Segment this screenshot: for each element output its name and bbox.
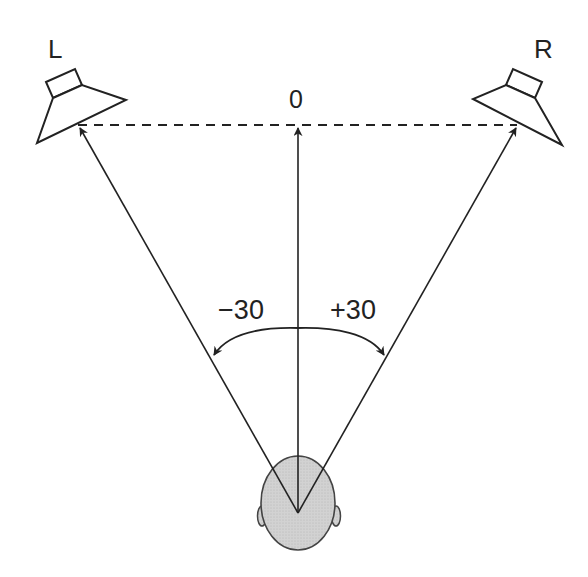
left-angle-label: −30: [218, 295, 264, 325]
right-speaker-label: R: [534, 34, 553, 64]
right-angle-label: +30: [330, 295, 376, 325]
stereo-setup-diagram: L R 0 −30 +30: [0, 0, 588, 577]
right-speaker-icon: [473, 69, 562, 145]
left-direction-arrow: [80, 128, 298, 513]
angle-arc-right: [298, 328, 384, 355]
listener-head-icon: [258, 456, 341, 550]
left-speaker-label: L: [48, 34, 62, 64]
angle-arc-left: [214, 328, 298, 355]
center-angle-label: 0: [289, 85, 303, 113]
